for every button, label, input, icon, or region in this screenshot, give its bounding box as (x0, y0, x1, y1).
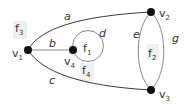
edge-label-b: b (49, 37, 56, 50)
vertex-v2 (147, 8, 155, 16)
planar-graph-diagram: v1 v2 v3 v4 a b c d e g f1 f2 f3 f4 (0, 0, 188, 108)
edge-label-d: d (99, 27, 107, 40)
edge-label-a: a (64, 10, 71, 23)
edge-label-g: g (172, 32, 179, 45)
face-label-f1: f1 (83, 42, 91, 57)
vertex-v1 (24, 46, 32, 54)
vertex-label-v1: v1 (12, 47, 23, 62)
vertex-v4 (69, 46, 77, 54)
edge-label-e: e (133, 28, 140, 41)
vertex-label-v4: v4 (64, 55, 76, 70)
edge-label-c: c (49, 74, 55, 87)
vertex-v3 (147, 86, 155, 94)
vertex-label-v2: v2 (159, 7, 170, 22)
vertex-label-v3: v3 (159, 88, 170, 103)
